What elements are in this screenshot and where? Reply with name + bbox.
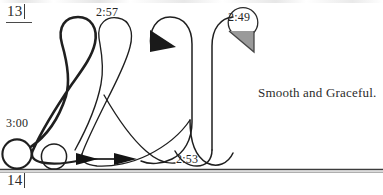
trace-final-hook [212,17,233,150]
measure-number-14: 14 [7,172,25,189]
measure-13-text: 13 [7,3,23,19]
trace-right-hook [141,17,192,163]
measure-14-text: 14 [7,172,23,188]
timing-label-second: 2:57 [96,5,118,20]
trace-loop-two-light [75,18,132,154]
baseline-rule [0,170,383,173]
skating-diagram-page: 13 14 3:00 2:57 2:53 2:49 Smooth and Gra… [0,0,383,195]
arrowhead-black-hook [150,30,176,52]
measure-14-tick [24,173,25,188]
trace-heavy-to-baseline [32,150,80,164]
second-circle [41,144,66,169]
timing-label-fourth: 2:49 [228,10,250,25]
timing-label-start: 3:00 [6,116,28,131]
trace-diagonal-to-right-hook [104,95,175,163]
start-circle [2,139,31,168]
measure-13-underline [6,22,32,23]
caption-smooth-and-graceful: Smooth and Graceful. [258,85,376,101]
timing-label-third: 2:53 [176,152,198,167]
measure-number-13: 13 [7,3,25,20]
measure-13-tick [24,4,25,19]
